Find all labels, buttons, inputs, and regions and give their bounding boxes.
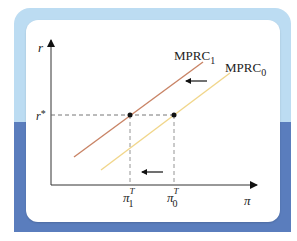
x-axis-label: π xyxy=(244,193,251,208)
pi1-tick-label: πT1 xyxy=(123,186,136,209)
mprc0-curve xyxy=(101,73,230,170)
point-mprc0 xyxy=(172,113,177,118)
pi0-tick-label: πT0 xyxy=(167,186,180,209)
point-mprc1 xyxy=(128,113,133,118)
mprc1-label: MPRC1 xyxy=(174,48,215,66)
y-axis-label: r xyxy=(38,40,44,55)
mprc1-curve xyxy=(74,62,203,157)
r-star-label: r* xyxy=(36,108,46,123)
mprc0-label: MPRC0 xyxy=(225,60,266,78)
mprc-diagram: r π r* MPRC1 MPRC0 πT1 πT0 xyxy=(0,0,297,241)
